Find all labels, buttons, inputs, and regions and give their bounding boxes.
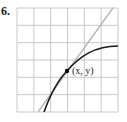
point-label: (x, y) (72, 65, 94, 77)
point-marker (65, 69, 69, 73)
figure: (x, y) (0, 0, 127, 122)
grid (17, 8, 118, 112)
curve (44, 46, 118, 112)
